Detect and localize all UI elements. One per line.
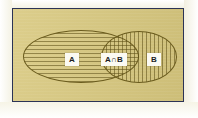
universal-set-rectangle: A A∩B B: [12, 8, 184, 102]
page-margin-left: [0, 0, 12, 118]
page-margin-top: [0, 0, 198, 8]
set-a-label: A: [65, 53, 79, 66]
set-b-label: B: [147, 53, 161, 66]
venn-diagram-figure: A A∩B B: [0, 0, 198, 118]
intersection-label: A∩B: [101, 53, 127, 66]
page-margin-bottom: [0, 102, 198, 118]
page-margin-right: [184, 0, 198, 118]
